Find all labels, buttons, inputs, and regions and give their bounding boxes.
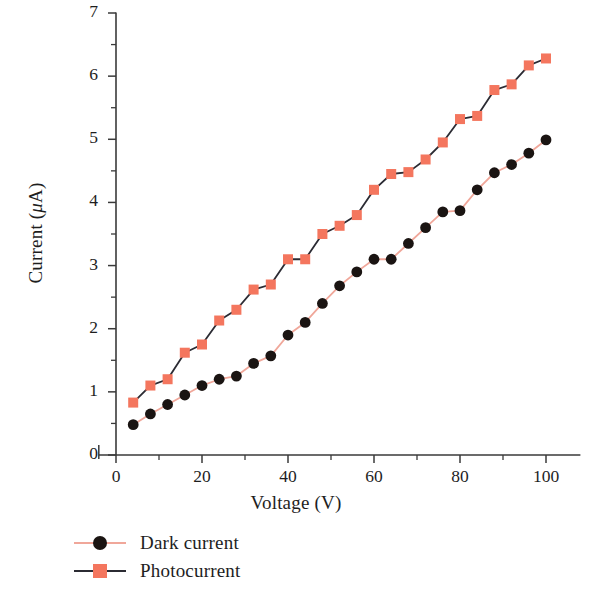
y-tick-label: 4 — [68, 190, 98, 211]
y-tick-label: 0 — [68, 443, 98, 464]
y-tick-label: 1 — [68, 380, 98, 401]
legend-circle-marker-icon — [93, 536, 107, 550]
legend-item-dark-current: Dark current — [74, 529, 241, 557]
y-tick-label: 6 — [68, 64, 98, 85]
legend-label: Dark current — [140, 532, 239, 554]
x-tick-label: 0 — [96, 466, 136, 487]
y-axis-title-prefix: Current ( — [25, 213, 46, 284]
y-axis-title-suffix: A) — [25, 182, 46, 202]
y-tick-label: 7 — [68, 1, 98, 22]
x-tick-label: 40 — [268, 466, 308, 487]
y-tick-label: 2 — [68, 317, 98, 338]
y-axis-title: Current (μA) — [25, 113, 47, 353]
legend-symbol — [74, 561, 126, 581]
y-axis-title-mu: μ — [25, 203, 46, 213]
chart-legend: Dark currentPhotocurrent — [74, 529, 241, 585]
legend-label: Photocurrent — [140, 560, 241, 582]
y-tick-label: 5 — [68, 127, 98, 148]
x-tick-label: 20 — [182, 466, 222, 487]
legend-square-marker-icon — [93, 564, 107, 578]
x-tick-label: 100 — [526, 466, 566, 487]
y-tick-label: 3 — [68, 254, 98, 275]
chart-figure: Current (μA) Voltage (V) 012345670204060… — [0, 0, 592, 589]
legend-symbol — [74, 533, 126, 553]
legend-item-photocurrent: Photocurrent — [74, 557, 241, 585]
data-series — [128, 53, 552, 430]
x-axis-title: Voltage (V) — [0, 492, 592, 514]
x-tick-label: 80 — [440, 466, 480, 487]
x-tick-label: 60 — [354, 466, 394, 487]
